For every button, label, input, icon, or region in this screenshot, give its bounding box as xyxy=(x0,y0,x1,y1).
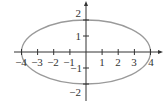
x-tick-label: 3 xyxy=(131,56,137,68)
x-tick-label: −3 xyxy=(31,56,43,68)
y-tick-label: 1 xyxy=(76,30,82,42)
x-tick-label: 2 xyxy=(115,56,121,68)
x-tick-label: 1 xyxy=(99,56,105,68)
x-tick-label: −4 xyxy=(15,56,27,68)
x-tick-label: 4 xyxy=(148,56,154,68)
x-axis-arrow-icon xyxy=(158,50,163,54)
y-tick-label: 2 xyxy=(76,7,82,19)
y-axis-arrow-icon xyxy=(84,1,88,6)
x-tick-label: −2 xyxy=(47,56,59,68)
ellipse-plot: −4 −3 −2 −1 1 2 3 4 2 1 −1 −2 xyxy=(0,0,163,104)
y-tick-label: −2 xyxy=(69,86,81,98)
y-tick-label: −1 xyxy=(70,62,82,74)
